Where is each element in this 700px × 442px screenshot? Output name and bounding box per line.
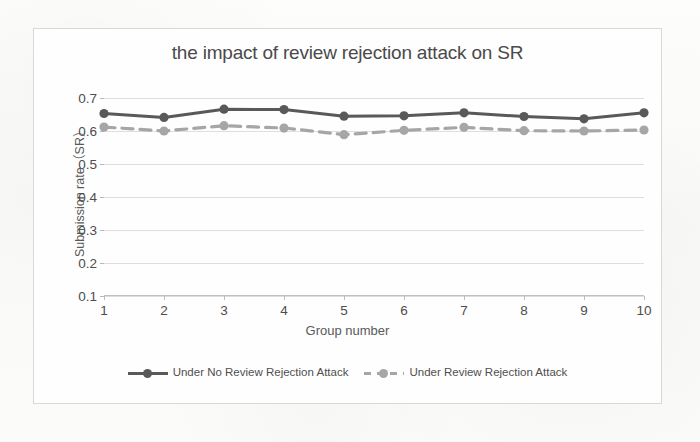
x-tick-mark	[344, 296, 345, 300]
legend-label: Under No Review Rejection Attack	[173, 367, 349, 379]
data-point-marker	[159, 113, 168, 122]
data-point-marker	[219, 121, 228, 130]
data-point-marker	[399, 111, 408, 120]
plot-area: 0.10.20.30.40.50.60.7 12345678910	[104, 98, 644, 296]
x-tick-mark	[644, 296, 645, 300]
x-tick-mark	[524, 296, 525, 300]
data-point-marker	[159, 126, 168, 135]
x-tick-mark	[164, 296, 165, 300]
chart-title: the impact of review rejection attack on…	[34, 42, 661, 64]
series-line-0	[104, 109, 644, 119]
legend-marker-dot	[143, 369, 152, 378]
y-tick-label: 0.6	[78, 124, 97, 139]
y-tick-label: 0.5	[78, 157, 97, 172]
legend-entry-1[interactable]: Under Review Rejection Attack	[364, 367, 567, 379]
data-point-marker	[219, 105, 228, 114]
series-line-1	[104, 126, 644, 135]
data-point-marker	[519, 112, 528, 121]
y-tick-label: 0.4	[78, 190, 97, 205]
x-tick-label: 8	[520, 303, 528, 318]
y-tick-label: 0.1	[78, 289, 97, 304]
chart-figure-frame: the impact of review rejection attack on…	[33, 28, 662, 404]
data-point-marker	[399, 126, 408, 135]
x-tick-label: 9	[580, 303, 588, 318]
data-point-marker	[579, 126, 588, 135]
x-tick-label: 6	[400, 303, 408, 318]
gridline	[104, 296, 644, 297]
data-point-marker	[99, 109, 108, 118]
legend-swatch-icon	[364, 367, 404, 379]
x-tick-mark	[224, 296, 225, 300]
data-point-marker	[339, 112, 348, 121]
chart-legend: Under No Review Rejection AttackUnder Re…	[34, 367, 661, 379]
data-point-marker	[459, 123, 468, 132]
x-tick-label: 4	[280, 303, 288, 318]
data-point-marker	[579, 114, 588, 123]
data-point-marker	[639, 108, 648, 117]
data-point-marker	[279, 123, 288, 132]
x-tick-mark	[584, 296, 585, 300]
legend-marker-dot	[379, 369, 388, 378]
y-tick-label: 0.7	[78, 91, 97, 106]
data-point-marker	[99, 122, 108, 131]
x-tick-mark	[284, 296, 285, 300]
x-tick-label: 5	[340, 303, 348, 318]
x-tick-label: 10	[636, 303, 651, 318]
legend-swatch-icon	[128, 367, 168, 379]
data-point-marker	[279, 105, 288, 114]
legend-entry-0[interactable]: Under No Review Rejection Attack	[128, 367, 349, 379]
x-tick-mark	[404, 296, 405, 300]
data-point-marker	[339, 130, 348, 139]
x-tick-label: 3	[220, 303, 228, 318]
x-axis-title: Group number	[34, 323, 661, 338]
data-series-layer	[104, 98, 644, 296]
data-point-marker	[639, 125, 648, 134]
y-tick-label: 0.2	[78, 256, 97, 271]
data-point-marker	[459, 108, 468, 117]
legend-label: Under Review Rejection Attack	[409, 367, 567, 379]
x-tick-label: 2	[160, 303, 168, 318]
data-point-marker	[519, 126, 528, 135]
y-tick-label: 0.3	[78, 223, 97, 238]
x-tick-label: 1	[100, 303, 108, 318]
x-tick-mark	[104, 296, 105, 300]
x-tick-label: 7	[460, 303, 468, 318]
x-tick-mark	[464, 296, 465, 300]
